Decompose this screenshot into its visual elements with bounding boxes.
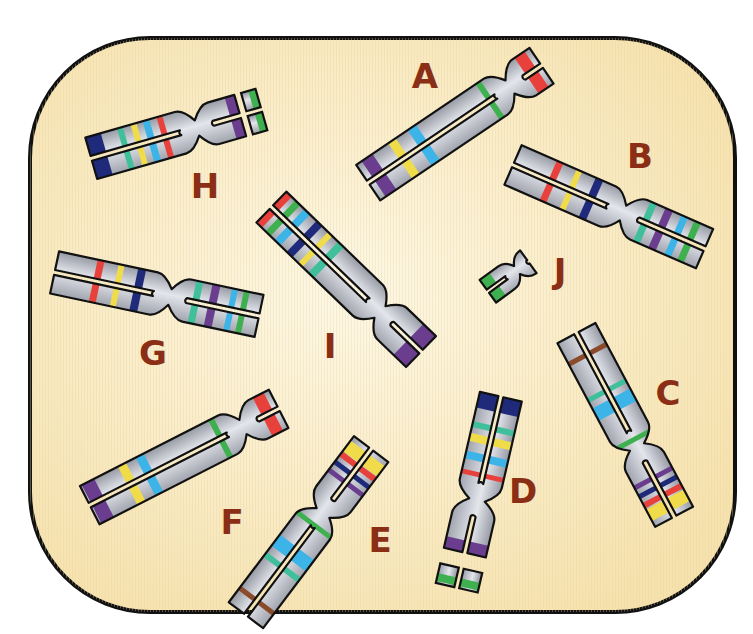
chromosome-label-g: G [139,333,167,373]
chromosome-label-j: J [552,251,567,291]
chromosome-label-a: A [412,56,439,96]
chromosome-label-h: H [191,166,219,206]
chromosome-label-b: B [627,136,653,176]
chromosome-fragment [459,569,482,593]
chromosome-diagram: ABCDEFGHIJ [0,0,753,634]
chromosome-label-c: C [656,373,681,413]
chromosome-label-f: F [220,502,243,542]
chromosome-fragment [436,563,459,587]
chromosome-label-e: E [368,520,391,560]
chromosome-label-d: D [509,471,537,511]
chromosome-label-i: I [324,326,337,366]
